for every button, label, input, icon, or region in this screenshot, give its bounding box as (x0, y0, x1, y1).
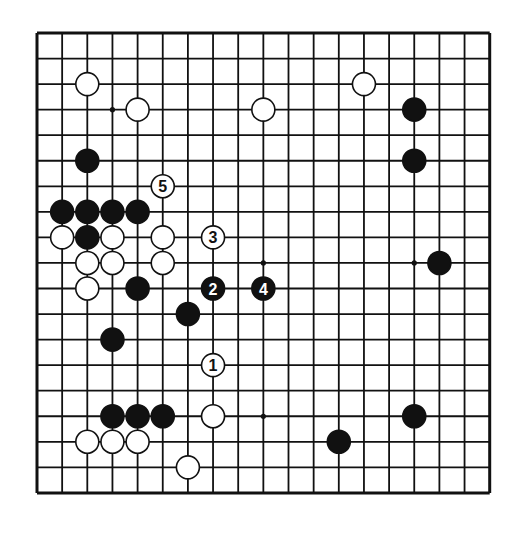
move-number-label: 1 (209, 357, 218, 374)
black-stone (428, 251, 451, 274)
move-number-label: 5 (158, 178, 167, 195)
go-board: 12345 (0, 0, 521, 536)
black-stone-icon (403, 149, 426, 172)
black-stone (126, 405, 149, 428)
white-stone (151, 251, 174, 274)
star-point (261, 260, 266, 265)
black-stone-icon (327, 430, 350, 453)
black-stone-icon (126, 277, 149, 300)
star-point (412, 260, 417, 265)
white-stone-icon (101, 430, 124, 453)
white-stone-icon (101, 251, 124, 274)
black-stone (76, 149, 99, 172)
black-stone (76, 226, 99, 249)
black-stone-icon (76, 226, 99, 249)
white-stone (76, 430, 99, 453)
numbered-move-4: 4 (252, 277, 275, 300)
black-stone-icon (76, 149, 99, 172)
black-stone-icon (126, 405, 149, 428)
white-stone (51, 226, 74, 249)
white-stone (76, 251, 99, 274)
white-stone (252, 98, 275, 121)
white-stone (101, 226, 124, 249)
star-point (261, 414, 266, 419)
black-stone-icon (126, 200, 149, 223)
white-stone-icon (76, 73, 99, 96)
black-stone-icon (403, 98, 426, 121)
black-stone (327, 430, 350, 453)
white-stone (202, 405, 225, 428)
black-stone-icon (403, 405, 426, 428)
black-stone (403, 405, 426, 428)
white-stone (352, 73, 375, 96)
white-stone (76, 73, 99, 96)
black-stone-icon (51, 200, 74, 223)
white-stone (126, 430, 149, 453)
white-stone (151, 226, 174, 249)
black-stone-icon (101, 328, 124, 351)
black-stone-icon (176, 303, 199, 326)
move-number-label: 2 (209, 281, 218, 298)
black-stone (76, 200, 99, 223)
white-stone-icon (252, 98, 275, 121)
white-stone (76, 277, 99, 300)
black-stone (101, 405, 124, 428)
black-stone (101, 200, 124, 223)
go-board-diagram: 12345 (0, 0, 521, 536)
white-stone-icon (176, 456, 199, 479)
black-stone (403, 98, 426, 121)
move-number-label: 3 (209, 229, 218, 246)
white-stone-icon (51, 226, 74, 249)
move-number-label: 4 (259, 281, 268, 298)
white-stone-icon (76, 251, 99, 274)
black-stone (126, 277, 149, 300)
white-stone-icon (126, 98, 149, 121)
white-stone-icon (151, 226, 174, 249)
black-stone-icon (101, 405, 124, 428)
numbered-move-1: 1 (202, 354, 225, 377)
star-point (110, 107, 115, 112)
numbered-move-5: 5 (151, 175, 174, 198)
black-stone (151, 405, 174, 428)
black-stone-icon (151, 405, 174, 428)
white-stone (101, 251, 124, 274)
white-stone (101, 430, 124, 453)
numbered-move-3: 3 (202, 226, 225, 249)
white-stone-icon (151, 251, 174, 274)
black-stone (403, 149, 426, 172)
white-stone-icon (76, 277, 99, 300)
black-stone (51, 200, 74, 223)
black-stone-icon (76, 200, 99, 223)
black-stone (126, 200, 149, 223)
white-stone-icon (76, 430, 99, 453)
white-stone-icon (126, 430, 149, 453)
black-stone-icon (101, 200, 124, 223)
white-stone (176, 456, 199, 479)
black-stone (176, 303, 199, 326)
black-stone (101, 328, 124, 351)
white-stone (126, 98, 149, 121)
white-stone-icon (202, 405, 225, 428)
numbered-move-2: 2 (202, 277, 225, 300)
white-stone-icon (101, 226, 124, 249)
white-stone-icon (352, 73, 375, 96)
black-stone-icon (428, 251, 451, 274)
